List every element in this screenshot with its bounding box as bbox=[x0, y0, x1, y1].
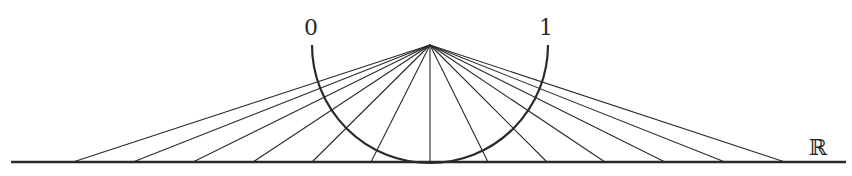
ray bbox=[253, 45, 430, 162]
diagram-canvas: 0 1 ℝ bbox=[0, 0, 852, 176]
projection-rays bbox=[73, 45, 785, 162]
label-one: 1 bbox=[539, 15, 553, 40]
ray bbox=[193, 45, 430, 162]
projection-figure: 0 1 ℝ bbox=[0, 0, 852, 176]
ray bbox=[430, 45, 725, 162]
ray bbox=[430, 45, 785, 162]
ray bbox=[371, 45, 430, 162]
ray bbox=[73, 45, 430, 162]
ray bbox=[430, 45, 488, 162]
ray bbox=[430, 45, 547, 162]
ray bbox=[133, 45, 430, 162]
ray bbox=[312, 45, 430, 162]
label-real-numbers: ℝ bbox=[809, 135, 828, 160]
label-zero: 0 bbox=[304, 15, 318, 40]
